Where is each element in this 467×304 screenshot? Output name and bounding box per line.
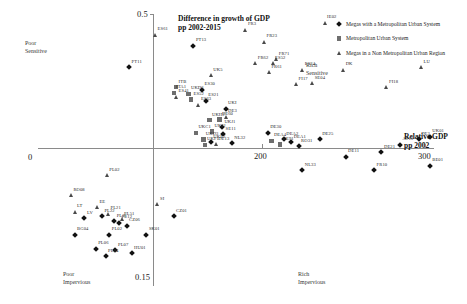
data-point-label: UKJ2 <box>215 123 226 128</box>
data-point-label: FI18 <box>389 79 398 84</box>
data-point-label: UKD3 <box>206 131 219 136</box>
diamond-marker-icon <box>106 232 112 238</box>
data-point-label: CZ01 <box>176 208 187 213</box>
y-tick-top: 0.5 <box>137 9 148 19</box>
triangle-marker-icon <box>105 173 109 177</box>
diamond-marker-icon <box>103 253 109 259</box>
legend-item-square[interactable]: Metropolitan Urban System <box>337 34 462 42</box>
square-legend-icon <box>337 36 341 40</box>
data-point-label: FR23 <box>267 33 278 38</box>
triangle-marker-icon <box>384 85 388 89</box>
x-axis-line <box>38 148 434 149</box>
data-point-label: ES52 <box>275 55 285 60</box>
diamond-marker-icon <box>82 215 88 221</box>
chart-legend: Megas with a Metropolitan Urban SystemMe… <box>337 20 462 63</box>
x-tick-mark-300 <box>425 144 426 148</box>
diamond-marker-icon <box>190 43 196 49</box>
legend-item-label: Megas in a Non Metropolitan Urban Region <box>346 50 445 56</box>
data-point-label: PL02 <box>109 167 119 172</box>
data-point-label: ES41 <box>179 88 189 93</box>
scatter-chart: Difference in growth of GDP pp 2002-2015… <box>0 0 467 304</box>
legend-item-label: Metropolitan Urban System <box>346 35 408 41</box>
data-point-label: PT13 <box>196 37 206 42</box>
data-point-label: FR62 <box>258 55 269 60</box>
data-point-label: EE <box>99 199 105 204</box>
data-point-label: LT <box>77 203 82 208</box>
data-point-label: SI <box>160 196 164 201</box>
triangle-marker-icon <box>300 68 304 72</box>
data-point-label: CZ06 <box>129 217 140 222</box>
data-point-label: DE11 <box>348 148 359 153</box>
data-point-label: ES61 <box>158 26 168 31</box>
data-point-label: PL06 <box>98 240 108 245</box>
data-point-label: UK01 <box>432 128 444 133</box>
triangle-legend-icon <box>337 51 341 55</box>
data-point-label: LV <box>87 210 93 215</box>
data-point-label: DE21 <box>384 144 395 149</box>
diamond-marker-icon <box>72 232 78 238</box>
legend-item-label: Megas with a Metropolitan Urban System <box>346 21 440 27</box>
y-axis-line <box>153 14 154 286</box>
legend-item-diamond[interactable]: Megas with a Metropolitan Urban System <box>337 20 462 28</box>
diamond-marker-icon <box>99 214 105 220</box>
quadrant-poor-sensitive: Poor Sensitive <box>25 40 55 56</box>
data-point-label: DE3 <box>228 108 237 113</box>
data-point-label: UKC1 <box>198 124 210 129</box>
diamond-marker-icon <box>143 232 149 238</box>
data-point-label: FR10 <box>377 162 388 167</box>
legend-item-triangle[interactable]: Megas in a Non Metropolitan Urban Region <box>337 49 462 57</box>
data-point-label: PL02 <box>112 226 122 231</box>
diamond-legend-icon <box>336 21 342 27</box>
data-point-label: SE04 <box>315 75 325 80</box>
data-point-label: PL51 <box>124 211 134 216</box>
triangle-marker-icon <box>209 73 213 77</box>
data-point-label: BG04 <box>77 226 88 231</box>
square-marker-icon <box>217 117 221 121</box>
diamond-marker-icon <box>379 149 385 155</box>
diamond-marker-icon <box>299 168 305 174</box>
data-point-label: PL04 <box>108 248 118 253</box>
data-point-label: RO31 <box>301 138 312 143</box>
x-tick-300: 300 <box>418 151 431 161</box>
triangle-marker-icon <box>95 205 99 209</box>
diamond-marker-icon <box>129 250 135 256</box>
data-point-label: BE01 <box>432 157 443 162</box>
diamond-marker-icon <box>371 168 377 174</box>
diamond-marker-icon <box>126 64 132 70</box>
square-marker-icon <box>207 118 211 122</box>
data-point-label: SK01 <box>149 226 160 231</box>
triangle-marker-icon <box>73 210 77 214</box>
y-tick-bottom: 0.15 <box>135 272 150 282</box>
data-point-label: FR61 <box>271 64 282 69</box>
data-point-label: UKF1 <box>207 136 219 141</box>
data-point-label: DE13 <box>218 136 229 141</box>
x-tick-mark-200 <box>262 144 263 148</box>
triangle-marker-icon <box>214 142 218 146</box>
triangle-marker-icon <box>174 95 178 99</box>
triangle-marker-icon <box>294 82 298 86</box>
data-point-label: HU01 <box>134 245 146 250</box>
data-point-label: ES30 <box>205 81 215 86</box>
diamond-marker-icon <box>229 141 235 147</box>
data-point-label: NL32 <box>234 135 245 140</box>
diamond-marker-icon <box>124 223 130 229</box>
quadrant-rich-impervious: Rich Impervious <box>298 271 332 287</box>
x-tick-0: 0 <box>28 152 32 162</box>
data-point-label: ITB <box>179 79 187 84</box>
triangle-marker-icon <box>224 115 228 119</box>
quadrant-poor-impervious: Poor Impervious <box>63 271 97 287</box>
triangle-marker-icon <box>106 212 110 216</box>
square-marker-icon <box>203 143 207 147</box>
diamond-marker-icon <box>265 130 271 136</box>
diamond-marker-icon <box>171 214 177 220</box>
data-point-label: PL21 <box>111 205 121 210</box>
data-point-label: AT13 <box>403 136 414 141</box>
triangle-marker-icon <box>196 103 200 107</box>
data-point-label: ES63 <box>201 96 211 101</box>
triangle-marker-icon <box>253 61 257 65</box>
square-marker-icon <box>201 137 205 141</box>
x-tick-200: 200 <box>254 151 267 161</box>
triangle-marker-icon <box>153 33 157 37</box>
data-point-label: ES52 <box>194 91 204 96</box>
data-point-label: FI17 <box>299 76 308 81</box>
